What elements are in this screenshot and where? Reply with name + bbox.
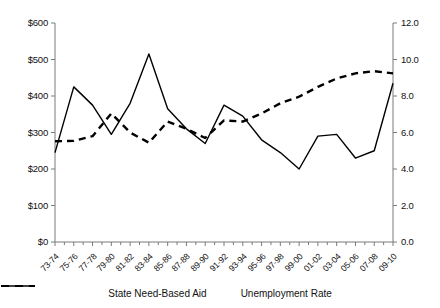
chart-legend: State Need-Based Aid Unemployment Rate — [0, 281, 440, 305]
solid-line-icon — [0, 281, 36, 291]
legend-label-unemployment-rate: Unemployment Rate — [241, 288, 332, 299]
left-axis-tick-6: $600 — [0, 17, 48, 28]
legend-item-unemployment-rate: Unemployment Rate — [241, 288, 332, 299]
left-axis-tick-1: $100 — [0, 200, 48, 211]
right-axis-tick-4: 8.0 — [401, 90, 414, 101]
left-axis-tick-5: $500 — [0, 54, 48, 65]
left-axis-tick-2: $200 — [0, 163, 48, 174]
left-axis-tick-4: $400 — [0, 90, 48, 101]
right-axis-tick-2: 4.0 — [401, 163, 414, 174]
chart-container: $0$100$200$300$400$500$600 0.02.04.06.08… — [0, 0, 440, 308]
left-axis-tick-3: $300 — [0, 127, 48, 138]
right-axis-tick-0: 0.0 — [401, 236, 414, 247]
left-axis-tick-0: $0 — [0, 236, 48, 247]
right-axis-tick-3: 6.0 — [401, 127, 414, 138]
right-axis-tick-1: 2.0 — [401, 200, 414, 211]
right-axis-tick-6: 12.0 — [401, 17, 419, 28]
legend-label-state-need-based-aid: State Need-Based Aid — [108, 288, 206, 299]
legend-item-state-need-based-aid: State Need-Based Aid — [108, 288, 206, 299]
series-unemployment-rate — [55, 54, 393, 169]
right-axis-tick-5: 10.0 — [401, 54, 419, 65]
series-state-need-based-aid — [55, 71, 393, 143]
